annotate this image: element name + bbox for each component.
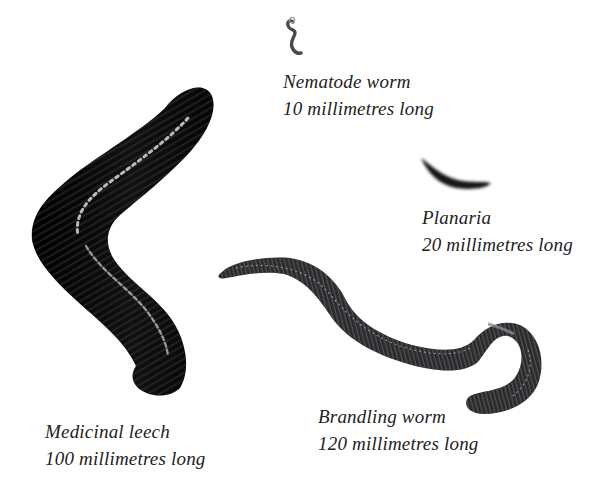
planaria-name: Planaria xyxy=(422,204,573,231)
nematode-caption: Nematode worm 10 millimetres long xyxy=(283,68,434,122)
worm-size-comparison-figure: Nematode worm 10 millimetres long Planar… xyxy=(0,0,591,493)
brandling-worm-image xyxy=(219,258,542,414)
medicinal-leech-image xyxy=(32,87,214,395)
planaria-length: 20 millimetres long xyxy=(422,231,573,258)
brandling-name: Brandling worm xyxy=(318,403,479,430)
brandling-caption: Brandling worm 120 millimetres long xyxy=(318,403,479,457)
nematode-name: Nematode worm xyxy=(283,68,434,95)
nematode-length: 10 millimetres long xyxy=(283,95,434,122)
leech-name: Medicinal leech xyxy=(45,418,206,445)
leech-length: 100 millimetres long xyxy=(45,445,206,472)
leech-caption: Medicinal leech 100 millimetres long xyxy=(45,418,206,472)
planaria-caption: Planaria 20 millimetres long xyxy=(422,204,573,258)
planaria-image xyxy=(421,158,491,189)
brandling-length: 120 millimetres long xyxy=(318,430,479,457)
nematode-worm-image xyxy=(288,17,301,53)
